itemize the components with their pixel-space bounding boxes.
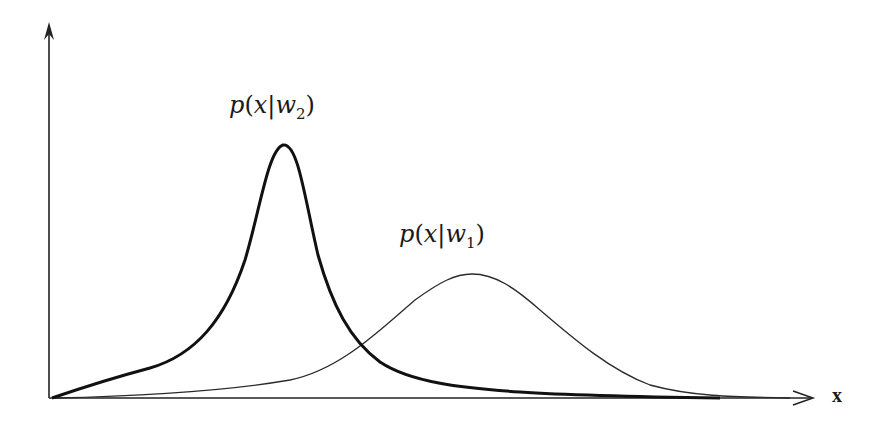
label-x: x bbox=[424, 220, 438, 248]
label-p-x-given-w1: p(x|w1) bbox=[399, 220, 485, 252]
label-p-x-given-w2: p(x|w2) bbox=[229, 91, 315, 123]
label-paren-close: ) bbox=[475, 220, 484, 248]
label-paren-open: ( bbox=[414, 220, 423, 248]
label-paren-open: ( bbox=[244, 91, 253, 119]
curve-p-x-w2 bbox=[52, 145, 720, 398]
label-x: x bbox=[254, 91, 268, 119]
diagram-canvas bbox=[0, 0, 886, 430]
label-p: p bbox=[399, 220, 414, 248]
label-w: w bbox=[275, 91, 296, 119]
label-w: w bbox=[445, 220, 466, 248]
label-p: p bbox=[229, 91, 244, 119]
label-paren-close: ) bbox=[305, 91, 314, 119]
x-axis-label: x bbox=[832, 384, 842, 407]
